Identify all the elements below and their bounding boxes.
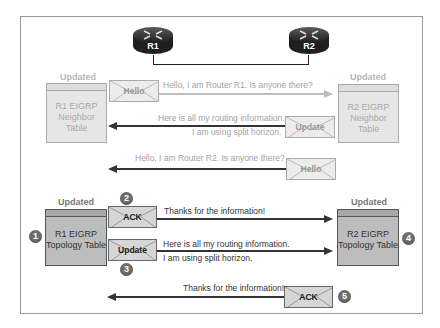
update-packet-r1: Update: [108, 239, 157, 261]
r2-topology-status: Updated: [339, 197, 399, 207]
r1-neighbor-table: R1 EIGRP Neighbor Table: [46, 83, 107, 143]
table-line: Neighbor: [339, 113, 398, 124]
update-r1-message-line2: I am using split horizon.: [163, 253, 252, 263]
step-badge-3: 3: [120, 263, 133, 276]
update-r2-message-line2: I am using split horizon.: [192, 127, 281, 137]
update-r2-message-line1: Here is all my routing information.: [158, 113, 285, 123]
arrow-hello-r2-to-r1: [110, 168, 286, 170]
table-line: R1 EIGRP: [46, 229, 106, 240]
table-line: Topology Table: [46, 240, 106, 251]
r1-topology-status: Updated: [46, 197, 106, 207]
router-icon: [287, 24, 331, 56]
step-badge-2: 2: [120, 192, 133, 205]
router-label: R2: [287, 41, 331, 51]
table-line: Table: [339, 124, 398, 135]
table-line: R1 EIGRP: [47, 101, 106, 112]
arrow-update-r1-to-r2: [157, 250, 331, 252]
update-r1-message-line1: Here is all my routing information.: [163, 239, 290, 249]
hello-packet-r1: Hello: [109, 80, 159, 102]
arrow-ack-r1-to-r2: [157, 218, 331, 220]
r2-neighbor-table: R2 EIGRP Neighbor Table: [338, 84, 399, 143]
r1-topology-table: R1 EIGRP Topology Table: [45, 209, 107, 266]
step-badge-1: 1: [29, 230, 42, 243]
table-line: Table: [47, 123, 106, 134]
hello-r2-message: Hello, I am Router R2. Is anyone there?: [135, 153, 285, 163]
router-r1: R1: [131, 24, 175, 56]
hello-r1-message: Hello, I am Router R1. Is anyone there?: [163, 80, 313, 90]
r2-neighbor-status: Updated: [338, 72, 398, 82]
ack-packet-r1: ACK: [108, 206, 157, 228]
step-badge-4: 4: [402, 232, 415, 245]
table-line: R2 EIGRP: [338, 229, 398, 240]
hello-packet-r2: Hello: [286, 158, 336, 180]
update-packet-r2: Update: [285, 116, 335, 138]
table-line: Neighbor: [47, 112, 106, 123]
serial-link: [153, 55, 309, 65]
arrow-ack-r2-to-r1: [109, 296, 284, 298]
router-r2: R2: [287, 24, 331, 56]
table-line: Topology Table: [338, 240, 398, 251]
r2-topology-table: R2 EIGRP Topology Table: [337, 209, 399, 266]
arrow-r1-to-r2: [159, 93, 331, 95]
ack-r1-message: Thanks for the information!: [164, 206, 265, 216]
r1-neighbor-status: Updated: [48, 72, 108, 82]
router-icon: [131, 24, 175, 56]
router-label: R1: [131, 41, 175, 51]
ack-r2-message: Thanks for the information!: [183, 283, 284, 293]
table-line: R2 EIGRP: [339, 102, 398, 113]
ack-packet-r2: ACK: [284, 286, 333, 308]
step-badge-5: 5: [338, 290, 351, 303]
